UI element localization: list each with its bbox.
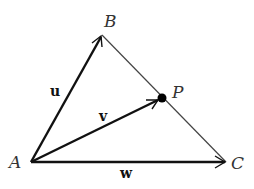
label-u: u xyxy=(50,83,60,99)
label-c: C xyxy=(231,153,244,173)
label-v: v xyxy=(98,108,108,124)
vector-u xyxy=(31,37,101,162)
label-p: P xyxy=(171,82,184,102)
vector-v xyxy=(31,100,158,162)
label-b: B xyxy=(103,11,117,31)
label-w: w xyxy=(119,165,133,181)
vector-diagram: A B C P u v w xyxy=(0,0,254,189)
point-p-dot xyxy=(158,94,167,103)
label-a: A xyxy=(7,152,21,172)
